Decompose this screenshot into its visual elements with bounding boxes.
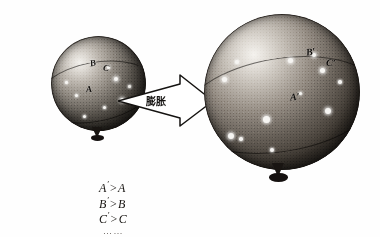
inequality-list: A′>A B′>B C′>C …… xyxy=(99,179,127,237)
star-dot xyxy=(103,106,106,109)
point-label-a-prime: A′ xyxy=(290,92,300,103)
point-label-c-prime: C′ xyxy=(326,58,336,69)
large-balloon xyxy=(204,14,360,170)
inequality-right: A xyxy=(118,181,126,195)
large-knot-tie xyxy=(269,173,288,182)
inequality-row: A′>A xyxy=(99,179,127,195)
inequality-right: C xyxy=(119,212,127,226)
inequality-op: > xyxy=(110,212,119,226)
star-dot xyxy=(338,80,342,84)
star-dot xyxy=(75,94,78,97)
inequality-op: > xyxy=(109,197,118,211)
figure-canvas: B C A 膨胀 B′ C′ A′ xyxy=(0,0,380,237)
star-dot xyxy=(239,137,243,141)
star-dot xyxy=(320,68,325,73)
star-dot xyxy=(288,58,293,63)
inequality-left: B xyxy=(99,197,107,211)
inequality-row: B′>B xyxy=(99,195,127,211)
inequality-op: > xyxy=(109,181,118,195)
point-label-a: A xyxy=(86,85,93,95)
inequality-ellipsis: …… xyxy=(99,226,127,238)
star-dot xyxy=(83,115,86,118)
large-balloon-outline xyxy=(204,14,360,170)
star-dot xyxy=(263,116,270,123)
point-label-c: C xyxy=(102,64,109,74)
inequality-left: A xyxy=(99,181,107,195)
point-label-b-prime: B′ xyxy=(305,46,316,57)
star-dot xyxy=(65,81,68,84)
star-dot xyxy=(228,133,234,139)
expansion-arrow: 膨胀 xyxy=(118,74,214,128)
star-dot xyxy=(325,108,331,114)
inequality-right: B xyxy=(118,197,126,211)
expansion-arrow-shape xyxy=(118,74,214,128)
star-dot xyxy=(222,77,227,82)
star-dot xyxy=(270,148,274,152)
star-dot xyxy=(299,92,302,95)
star-dot xyxy=(235,60,239,64)
inequality-row: C′>C xyxy=(99,210,127,226)
expansion-arrow-label: 膨胀 xyxy=(146,93,166,108)
small-knot-tie xyxy=(91,135,104,141)
